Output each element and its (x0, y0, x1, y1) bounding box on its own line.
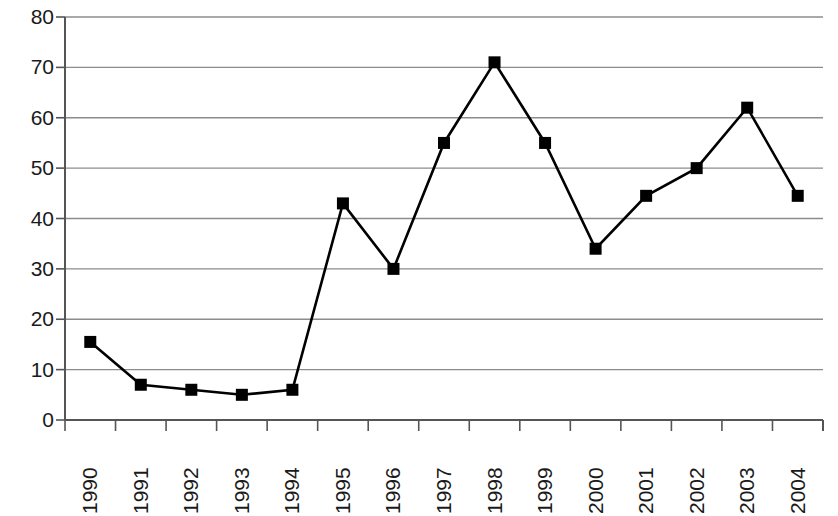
x-axis-tick-label: 1991 (130, 467, 151, 514)
axes (56, 17, 823, 431)
x-axis-tick-label: 1998 (484, 467, 505, 514)
data-series (90, 62, 797, 394)
x-axis-tick-labels: 1990199119921993199419951996199719981999… (0, 430, 838, 516)
data-point-marker (286, 384, 298, 396)
x-axis-tick-label: 1990 (79, 467, 100, 514)
gridlines (65, 17, 823, 370)
x-axis-tick-label: 1992 (180, 467, 201, 514)
data-point-marker (792, 190, 804, 202)
data-point-marker (84, 336, 96, 348)
data-point-marker (539, 137, 551, 149)
data-markers (84, 56, 803, 400)
x-axis-tick-label: 1997 (433, 467, 454, 514)
x-axis-tick-label: 1994 (281, 467, 302, 514)
data-point-marker (590, 243, 602, 255)
x-axis-tick-label: 2001 (635, 467, 656, 514)
data-point-marker (236, 389, 248, 401)
data-point-marker (438, 137, 450, 149)
x-axis-tick-label: 1999 (534, 467, 555, 514)
data-point-marker (489, 56, 501, 68)
x-axis-tick-label: 1995 (332, 467, 353, 514)
x-axis-tick-label: 1996 (382, 467, 403, 514)
data-point-marker (640, 190, 652, 202)
series-line (90, 62, 797, 394)
x-axis-tick-label: 2002 (686, 467, 707, 514)
data-point-marker (135, 379, 147, 391)
x-axis-tick-label: 2004 (787, 467, 808, 514)
data-point-marker (337, 197, 349, 209)
x-axis-tick-label: 2000 (585, 467, 606, 514)
x-axis-tick-label: 1993 (231, 467, 252, 514)
data-point-marker (185, 384, 197, 396)
data-point-marker (691, 162, 703, 174)
line-chart: 01020304050607080 1990199119921993199419… (0, 0, 838, 516)
data-point-marker (387, 263, 399, 275)
data-point-marker (741, 102, 753, 114)
x-axis-tick-label: 2003 (736, 467, 757, 514)
